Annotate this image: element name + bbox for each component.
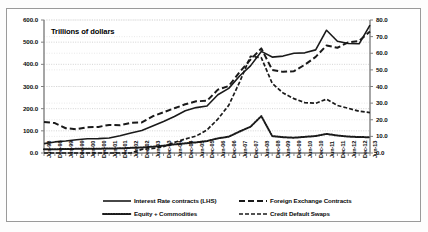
legend-swatch-dashed <box>238 197 268 205</box>
x-axis-tick-label: Jun-08 <box>264 141 270 158</box>
x-axis-tick-label: Dec-10 <box>318 141 324 158</box>
legend-item[interactable]: Foreign Exchange Contracts <box>238 197 352 205</box>
y-axis-right-tick-label: 80.0 <box>376 16 406 23</box>
legend-swatch-dotted <box>102 210 132 218</box>
x-axis-tick-label: Dec-12 <box>362 141 368 158</box>
y-axis-right-tick-label: 0.0 <box>376 149 406 156</box>
legend-item[interactable]: Equity + Commodities <box>102 210 197 218</box>
x-axis-tick-label: Jun-00 <box>90 141 96 158</box>
line-chart-svg <box>6 8 421 222</box>
x-axis-tick-label: Dec-11 <box>340 141 346 158</box>
x-axis-tick-label: Jun-99 <box>68 141 74 158</box>
x-axis-tick-label: Jun-05 <box>199 141 205 158</box>
legend-item[interactable]: Credit Default Swaps <box>238 210 330 218</box>
y-axis-right-tick-label: 20.0 <box>376 116 406 123</box>
x-axis-tick-label: Jun-01 <box>112 141 118 158</box>
x-axis-tick-label: Dec-06 <box>231 141 237 158</box>
x-axis-tick-label: Dec-98 <box>57 141 63 158</box>
x-axis-tick-label: Jun-11 <box>329 141 335 158</box>
legend-label: Equity + Commodities <box>134 210 197 217</box>
legend-row: Interest Rate contracts (LHS)Foreign Exc… <box>102 194 392 207</box>
y-axis-left-tick-label: 400.0 <box>8 60 38 67</box>
x-axis-tick-label: Jun-02 <box>133 141 139 158</box>
legend-swatch-solid <box>102 197 132 205</box>
x-axis-tick-label: Jun-06 <box>220 141 226 158</box>
chart-legend: Interest Rate contracts (LHS)Foreign Exc… <box>102 194 392 224</box>
x-axis-tick-label: Dec-07 <box>253 141 259 158</box>
y-axis-left-tick-label: 500.0 <box>8 38 38 45</box>
chart-figure: Trillions of dollars 0.0100.0200.0300.04… <box>0 0 428 232</box>
y-axis-right-tick-label: 40.0 <box>376 83 406 90</box>
legend-row: Equity + CommoditiesCredit Default Swaps <box>102 207 392 220</box>
x-axis-tick-label: Dec-03 <box>166 141 172 158</box>
x-axis-tick-label: Jun-04 <box>177 141 183 158</box>
x-axis-tick-label: Dec-01 <box>122 141 128 158</box>
x-axis-tick-label: Dec-99 <box>79 141 85 158</box>
x-axis-tick-label: Jun-09 <box>285 141 291 158</box>
x-axis-tick-label: Dec-05 <box>209 141 215 158</box>
tick-marks-group <box>41 20 373 156</box>
legend-swatch-dashdot <box>238 210 268 218</box>
series-line <box>44 31 370 129</box>
y-axis-left-tick-label: 300.0 <box>8 83 38 90</box>
legend-label: Interest Rate contracts (LHS) <box>134 197 216 204</box>
x-axis-tick-label: Jun-13 <box>372 141 378 158</box>
y-axis-right-tick-label: 70.0 <box>376 33 406 40</box>
x-axis-tick-label: Jun-07 <box>242 141 248 158</box>
y-axis-right-tick-label: 10.0 <box>376 132 406 139</box>
y-axis-right-tick-label: 50.0 <box>376 66 406 73</box>
x-axis-tick-label: Jun-12 <box>351 141 357 158</box>
plot-container: Trillions of dollars 0.0100.0200.0300.04… <box>6 8 421 222</box>
x-axis-tick-label: Dec-08 <box>275 141 281 158</box>
x-axis-tick-label: Dec-02 <box>144 141 150 158</box>
series-line <box>44 25 370 144</box>
legend-label: Foreign Exchange Contracts <box>270 197 352 204</box>
data-series-group <box>44 25 370 153</box>
legend-item[interactable]: Interest Rate contracts (LHS) <box>102 197 216 205</box>
y-axis-right-tick-label: 60.0 <box>376 49 406 56</box>
y-axis-right-tick-label: 30.0 <box>376 99 406 106</box>
y-axis-left-tick-label: 600.0 <box>8 16 38 23</box>
y-axis-left-tick-label: 0.0 <box>8 149 38 156</box>
x-axis-tick-label: Dec-00 <box>101 141 107 158</box>
legend-label: Credit Default Swaps <box>270 210 330 217</box>
chart-annotation-trillions: Trillions of dollars <box>51 27 114 36</box>
x-axis-tick-label: Dec-09 <box>296 141 302 158</box>
y-axis-left-tick-label: 100.0 <box>8 127 38 134</box>
x-axis-tick-label: Jun-98 <box>46 141 52 158</box>
x-axis-tick-label: Jun-10 <box>307 141 313 158</box>
x-axis-tick-label: Dec-04 <box>188 141 194 158</box>
y-axis-left-tick-label: 200.0 <box>8 105 38 112</box>
x-axis-tick-label: Jun-03 <box>155 141 161 158</box>
